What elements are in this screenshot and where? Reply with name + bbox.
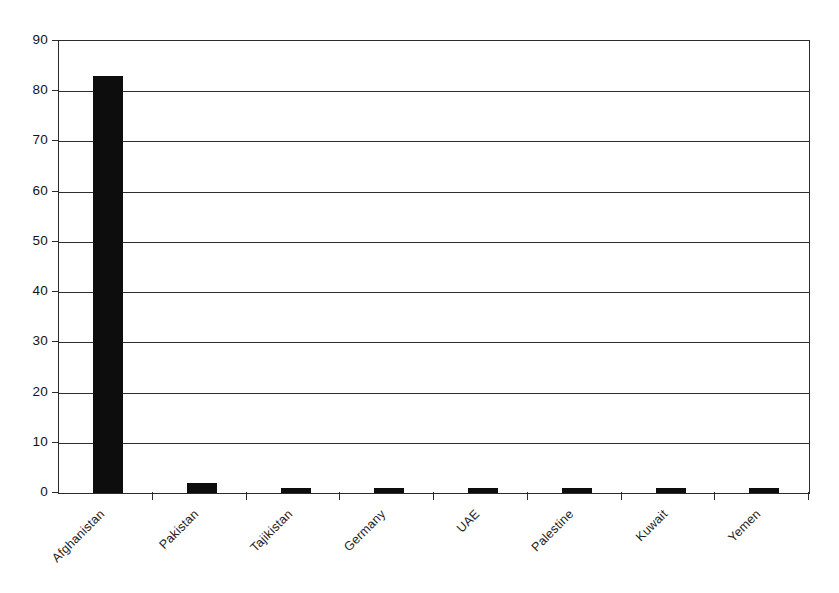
gridline (59, 141, 809, 142)
gridline (59, 342, 809, 343)
bar (281, 488, 311, 493)
x-tick-mark (339, 492, 340, 500)
bar (374, 488, 404, 493)
plot-area (58, 40, 810, 494)
y-tick-label: 70 (33, 134, 48, 148)
bar (468, 488, 498, 493)
x-tick-mark (808, 492, 809, 500)
y-axis: 0102030405060708090 (0, 0, 48, 593)
gridline (59, 292, 809, 293)
y-tick-label: 20 (33, 385, 48, 399)
y-tick-label: 50 (33, 234, 48, 248)
gridline (59, 91, 809, 92)
bar (93, 76, 123, 493)
gridline (59, 443, 809, 444)
x-tick-mark (152, 492, 153, 500)
y-tick-label: 90 (33, 33, 48, 47)
bar (749, 488, 779, 493)
y-tick-label: 80 (33, 83, 48, 97)
x-tick-mark (246, 492, 247, 500)
x-tick-mark (527, 492, 528, 500)
gridline (59, 242, 809, 243)
gridline (59, 393, 809, 394)
bar (562, 488, 592, 493)
bar (656, 488, 686, 493)
x-tick-mark (433, 492, 434, 500)
y-tick-label: 60 (33, 184, 48, 198)
bar-chart: 0102030405060708090 AfghanistanPakistanT… (0, 0, 839, 593)
y-tick-label: 40 (33, 284, 48, 298)
gridline (59, 192, 809, 193)
y-tick-label: 30 (33, 335, 48, 349)
y-tick-label: 0 (40, 485, 48, 499)
bar (187, 483, 217, 493)
y-tick-label: 10 (33, 435, 48, 449)
x-tick-mark (621, 492, 622, 500)
x-tick-mark (714, 492, 715, 500)
